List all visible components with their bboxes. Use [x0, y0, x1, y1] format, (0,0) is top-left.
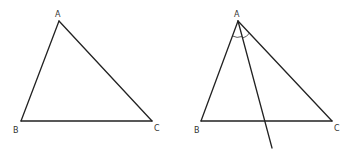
geometry-diagram: A B C A B C — [0, 0, 351, 159]
vertex-label-a-left: A — [55, 10, 61, 19]
vertex-label-a-right: A — [234, 10, 240, 19]
side-ab-right — [201, 21, 238, 121]
triangle-right: A B C — [194, 10, 340, 148]
side-ac-right — [238, 21, 332, 121]
vertex-label-b-left: B — [13, 126, 19, 135]
angle-arc-dac — [243, 33, 250, 38]
side-ab-left — [21, 21, 59, 121]
cevian-line — [238, 21, 272, 148]
vertex-label-c-right: C — [334, 124, 340, 133]
vertex-label-c-left: C — [154, 124, 160, 133]
angle-arc-bad — [233, 36, 243, 37]
side-ac-left — [59, 21, 152, 121]
triangle-left: A B C — [13, 10, 160, 135]
vertex-label-b-right: B — [194, 126, 200, 135]
